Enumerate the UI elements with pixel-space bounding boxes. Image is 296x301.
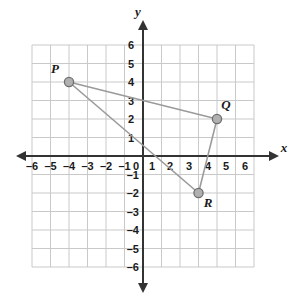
y-tick-4: 4	[128, 76, 135, 88]
point-marker-q	[212, 114, 221, 123]
x-axis-label: x	[280, 140, 288, 155]
x-axis-arrow-left	[16, 151, 26, 161]
y-tick--4: –4	[127, 224, 140, 236]
x-tick-1: 1	[149, 160, 155, 172]
y-tick-2: 2	[128, 113, 134, 125]
point-label-r: R	[203, 195, 213, 210]
x-tick-5: 5	[223, 160, 229, 172]
y-tick--5: –5	[127, 243, 139, 255]
x-tick--6: –6	[26, 160, 38, 172]
y-axis-arrow-down	[138, 283, 148, 293]
point-label-q: Q	[221, 97, 231, 112]
y-tick-5: 5	[128, 58, 134, 70]
y-tick--1: –1	[127, 169, 139, 181]
y-tick-6: 6	[128, 39, 134, 51]
x-tick--5: –5	[44, 160, 56, 172]
x-tick-3: 3	[186, 160, 192, 172]
x-tick-6: 6	[242, 160, 248, 172]
x-axis-arrow-right	[269, 151, 279, 161]
x-tick--4: –4	[63, 160, 76, 172]
x-tick--2: –2	[100, 160, 112, 172]
y-axis-arrow-up	[138, 20, 148, 30]
coordinate-plane-svg: x y –6 –5 –4 –3 –2 –1 0 1 2 3 4 5 6 6 5 …	[0, 0, 296, 301]
y-tick--3: –3	[127, 206, 139, 218]
y-tick--6: –6	[127, 261, 139, 273]
coordinate-plane-figure: x y –6 –5 –4 –3 –2 –1 0 1 2 3 4 5 6 6 5 …	[0, 0, 296, 301]
vertex-labels: P Q R	[51, 61, 231, 210]
point-marker-p	[64, 77, 73, 86]
point-label-p: P	[51, 61, 60, 76]
x-tick--3: –3	[81, 160, 93, 172]
point-marker-r	[194, 188, 203, 197]
y-axis-label: y	[133, 4, 141, 19]
y-tick--2: –2	[127, 187, 139, 199]
